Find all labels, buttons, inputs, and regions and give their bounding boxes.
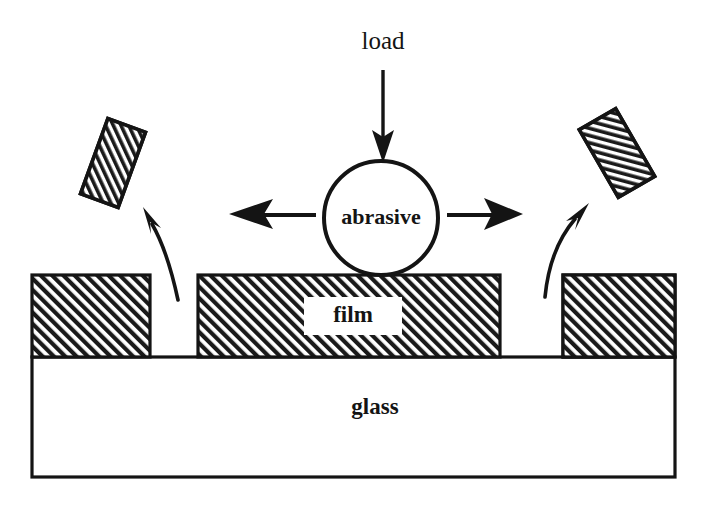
glass-substrate: glass <box>32 357 675 477</box>
left-debris-arrow-head <box>143 207 161 234</box>
abrasive-wear-schematic: glass film abrasive load <box>0 0 709 508</box>
left-debris-arrow-shaft <box>152 224 178 300</box>
film-layer: film <box>32 275 675 357</box>
glass-label: glass <box>351 394 398 419</box>
diagram-canvas: glass film abrasive load <box>0 0 709 508</box>
film-label: film <box>333 302 373 327</box>
load-label: load <box>361 27 405 54</box>
left-film-fragment <box>81 119 146 208</box>
right-push-arrow <box>447 198 523 230</box>
left-film-segment <box>32 275 150 357</box>
right-film-fragment <box>579 109 654 198</box>
right-film-segment <box>563 275 675 357</box>
abrasive-label: abrasive <box>341 204 421 229</box>
load-arrow: load <box>361 27 405 163</box>
left-push-arrow <box>229 199 316 229</box>
left-fragment-body <box>81 119 146 208</box>
abrasive-particle: abrasive <box>324 161 438 275</box>
right-fragment-body <box>579 109 654 198</box>
